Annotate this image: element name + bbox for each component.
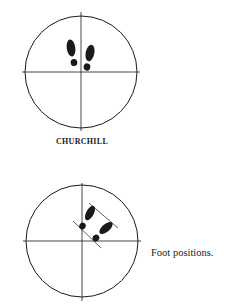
front-footprint-icon xyxy=(78,204,97,230)
right-footprint-icon xyxy=(83,44,96,71)
left-footprint-icon xyxy=(66,39,78,67)
lower-guide-line xyxy=(73,221,101,248)
diagram-churchill xyxy=(22,12,140,131)
diagram-foot-positions xyxy=(23,183,141,301)
churchill-label: CHURCHILL xyxy=(56,137,108,146)
foot-position-diagrams xyxy=(0,0,233,305)
rear-footprint-icon xyxy=(91,220,114,243)
foot-positions-caption: Foot positions. xyxy=(151,247,213,258)
